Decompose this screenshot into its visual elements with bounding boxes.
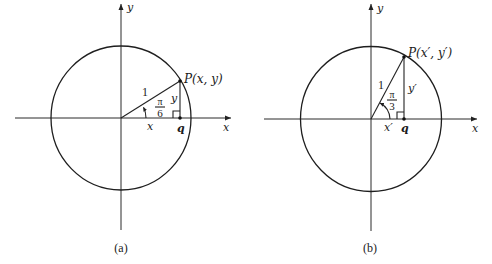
vertical-leg-label: y′: [407, 82, 417, 95]
angle-denominator: 6: [157, 107, 163, 119]
angle-denominator: 3: [389, 100, 395, 112]
horizontal-leg-label: x: [147, 120, 154, 133]
point-q: [178, 116, 182, 120]
point-q: [402, 117, 406, 121]
panel-caption: (b): [363, 241, 377, 255]
horizontal-leg-label: x′: [384, 121, 393, 134]
radius-label: 1: [142, 85, 148, 99]
y-axis-label: y: [126, 1, 134, 14]
x-axis-label: x: [472, 122, 479, 135]
foot-q-label: q: [177, 122, 185, 135]
x-axis-label: x: [223, 121, 230, 134]
panel-a: y x P(x, y) 1 π 6 y x q (a): [15, 1, 231, 255]
angle-arc-icon: [144, 107, 147, 118]
angle-fraction: π 3: [387, 89, 397, 112]
panel-caption: (a): [114, 241, 127, 255]
angle-fraction: π 6: [155, 96, 165, 119]
foot-q-label: q: [401, 122, 409, 135]
unit-circle-figure: y x P(x, y) 1 π 6 y x q (a) y x P(x′, y′…: [0, 0, 492, 264]
y-axis-label: y: [376, 2, 384, 15]
angle-numerator: π: [157, 96, 162, 107]
point-p: [178, 79, 182, 83]
vertical-leg-label: y: [170, 92, 178, 105]
point-p: [402, 55, 406, 59]
radius-label: 1: [378, 78, 384, 92]
point-p-label: P(x′, y′): [407, 46, 452, 60]
angle-numerator: π: [389, 89, 394, 100]
point-p-label: P(x, y): [183, 72, 223, 86]
panel-b: y x P(x′, y′) 1 π 3 y′ x′ q (b): [264, 2, 479, 255]
